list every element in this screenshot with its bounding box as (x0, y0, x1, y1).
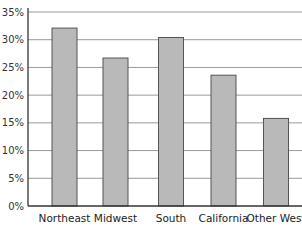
y-tick-label: 30% (2, 34, 24, 45)
bar-california (211, 75, 236, 206)
x-category-label: Other West (247, 212, 302, 224)
x-category-label: Midwest (94, 212, 137, 224)
y-tick-label: 10% (2, 145, 24, 156)
bar-south (159, 37, 184, 206)
x-category-label: South (156, 212, 187, 224)
y-tick-label: 0% (8, 201, 24, 212)
bar-midwest (103, 58, 128, 206)
bars (52, 28, 289, 206)
x-axis-category-labels: NortheastMidwestSouthCaliforniaOther Wes… (39, 212, 302, 224)
y-tick-label: 5% (8, 173, 24, 184)
bar-northeast (52, 28, 77, 206)
y-tick-label: 25% (2, 62, 24, 73)
bar-other-west (264, 118, 289, 206)
x-category-label: Northeast (39, 212, 91, 224)
x-category-label: California (199, 212, 249, 224)
y-tick-label: 15% (2, 117, 24, 128)
y-tick-label: 20% (2, 90, 24, 101)
y-axis-tick-labels: 0%5%10%15%20%25%30%35% (2, 7, 24, 212)
bar-chart: 0%5%10%15%20%25%30%35% NortheastMidwestS… (0, 0, 302, 230)
y-tick-label: 35% (2, 7, 24, 18)
